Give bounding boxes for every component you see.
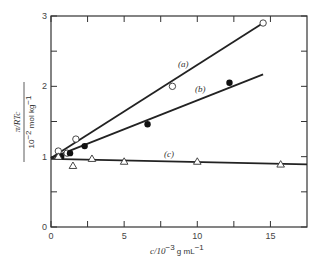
x-axis-label: c/10−3 g mL−1 [150, 243, 204, 256]
y-axis-label: π/RTc 10−2 mol kg−1 [12, 82, 36, 162]
filled-circle-point [226, 80, 232, 86]
open-circle-point [73, 136, 79, 142]
x-tick-label: 0 [48, 231, 53, 241]
fit-lines [51, 23, 307, 164]
y-tick-label: 2 [42, 81, 47, 91]
y-tick-label: 0 [42, 222, 47, 232]
series-label-c: (c) [164, 149, 174, 159]
x-tick-label: 5 [122, 231, 127, 241]
y-tick-label: 1 [42, 152, 47, 162]
open-circle-point [260, 20, 266, 26]
y-tick-label: 3 [42, 11, 47, 21]
filled-circle-point [67, 150, 73, 156]
svg-text:10−2 mol kg−1: 10−2 mol kg−1 [24, 95, 36, 149]
open-triangle-point [193, 158, 201, 164]
plot-frame [51, 16, 307, 227]
chart: 0510150123 (a) (b) (c) c/10−3 g mL−1 π/R… [0, 0, 324, 266]
svg-text:π/RTc: π/RTc [12, 112, 22, 133]
series-label-b: (b) [195, 84, 206, 94]
series-label-a: (a) [178, 59, 189, 69]
open-circle-point [169, 83, 175, 89]
fit-line [51, 23, 263, 158]
x-tick-label: 15 [265, 231, 275, 241]
svg-text:c/10−3 g mL−1: c/10−3 g mL−1 [150, 243, 204, 256]
filled-circle-point [144, 121, 150, 127]
x-tick-label: 10 [192, 231, 202, 241]
data-points [55, 20, 285, 169]
filled-circle-point [81, 143, 87, 149]
open-triangle-point [69, 162, 77, 168]
open-triangle-point [88, 155, 96, 161]
axis-ticks: 0510150123 [42, 11, 307, 241]
